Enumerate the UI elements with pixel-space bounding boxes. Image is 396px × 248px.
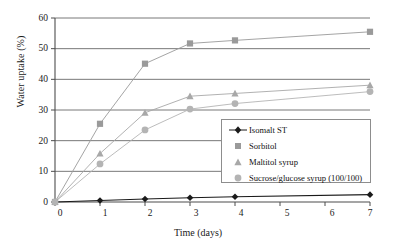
data-point-square (187, 40, 193, 46)
data-point-circle (187, 106, 194, 113)
legend-label-sorbitol: Sorbitol (248, 141, 277, 151)
legend-item-sucrose: Sucrose/glucose syrup (100/100) (228, 171, 362, 185)
chart-figure: Water uptake (%) Time (days) 60 50 40 30… (0, 0, 396, 248)
data-point-circle (232, 100, 239, 107)
square-marker-icon (228, 139, 248, 153)
legend-label-isomalt: Isomalt ST (248, 125, 287, 135)
data-point-diamond (367, 191, 374, 198)
legend-label-maltitol: Maltitol syrup (248, 157, 298, 167)
legend-label-sucrose: Sucrose/glucose syrup (100/100) (248, 173, 362, 183)
data-point-square (97, 121, 103, 127)
chart-legend: Isomalt ST Sorbitol Maltitol syrup (221, 119, 371, 183)
data-point-diamond (97, 197, 104, 204)
data-point-circle (142, 127, 149, 134)
data-point-diamond (187, 194, 194, 201)
legend-item-maltitol: Maltitol syrup (228, 155, 298, 169)
data-point-square (367, 29, 373, 35)
data-point-triangle (366, 82, 373, 89)
data-point-square (232, 37, 238, 43)
data-point-square (142, 61, 148, 67)
triangle-marker-icon (228, 155, 248, 169)
circle-marker-icon (228, 171, 248, 185)
data-point-diamond (142, 196, 149, 203)
diamond-marker-icon (228, 123, 248, 137)
data-point-circle (52, 199, 59, 206)
legend-item-sorbitol: Sorbitol (228, 139, 277, 153)
data-point-circle (97, 161, 104, 168)
data-point-diamond (232, 193, 239, 200)
data-point-circle (367, 88, 374, 95)
legend-item-isomalt: Isomalt ST (228, 123, 287, 137)
